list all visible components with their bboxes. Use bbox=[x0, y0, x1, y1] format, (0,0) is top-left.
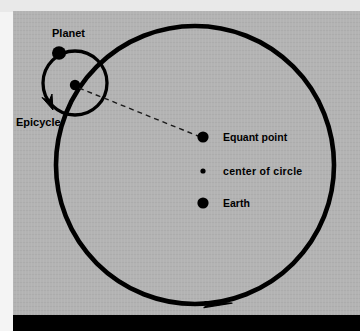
center-of-circle-dot bbox=[200, 168, 205, 173]
epicycle-diagram-figure: Planet Epicycle Equant point center of c… bbox=[0, 0, 360, 331]
bottom-black-bar bbox=[13, 315, 360, 331]
earth-dot bbox=[197, 197, 208, 208]
equant-point-dot bbox=[197, 131, 208, 142]
diagram-vector-layer bbox=[0, 0, 360, 331]
deferent-direction-arrow-icon bbox=[204, 302, 232, 308]
legend-item-center-of-circle-label: center of circle bbox=[223, 166, 303, 177]
planet-label: Planet bbox=[52, 28, 85, 39]
equant-dashed-line bbox=[79, 88, 198, 136]
epicycle-center-dot bbox=[70, 80, 80, 90]
planet-dot bbox=[52, 46, 66, 60]
legend-item-earth-label: Earth bbox=[223, 198, 250, 209]
legend-item-equant-point-label: Equant point bbox=[223, 132, 287, 143]
epicycle-label: Epicycle bbox=[16, 117, 61, 128]
